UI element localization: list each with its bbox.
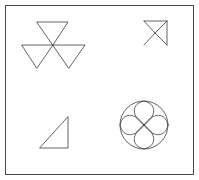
panel-border (6, 6, 194, 175)
figures-panel (0, 0, 199, 180)
figure-canvas (0, 0, 199, 180)
